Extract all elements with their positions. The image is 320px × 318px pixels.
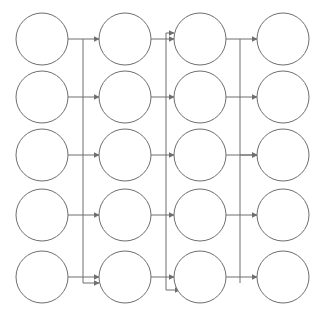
nodes-layer bbox=[16, 13, 309, 303]
node-circle[interactable] bbox=[16, 71, 68, 123]
node-circle[interactable] bbox=[257, 13, 309, 65]
edges-layer bbox=[68, 33, 257, 290]
node-circle[interactable] bbox=[99, 251, 151, 303]
node-circle[interactable] bbox=[16, 129, 68, 181]
node-grid-diagram bbox=[0, 0, 320, 318]
node-circle[interactable] bbox=[257, 251, 309, 303]
node-circle[interactable] bbox=[99, 129, 151, 181]
node-circle[interactable] bbox=[16, 13, 68, 65]
node-circle[interactable] bbox=[257, 189, 309, 241]
node-circle[interactable] bbox=[174, 189, 226, 241]
node-circle[interactable] bbox=[16, 189, 68, 241]
diagram-canvas bbox=[0, 0, 320, 318]
node-circle[interactable] bbox=[257, 129, 309, 181]
node-circle[interactable] bbox=[99, 189, 151, 241]
node-circle[interactable] bbox=[257, 71, 309, 123]
node-circle[interactable] bbox=[174, 251, 226, 303]
node-circle[interactable] bbox=[174, 13, 226, 65]
node-circle[interactable] bbox=[99, 71, 151, 123]
node-circle[interactable] bbox=[174, 71, 226, 123]
node-circle[interactable] bbox=[16, 251, 68, 303]
node-circle[interactable] bbox=[99, 13, 151, 65]
node-circle[interactable] bbox=[174, 129, 226, 181]
